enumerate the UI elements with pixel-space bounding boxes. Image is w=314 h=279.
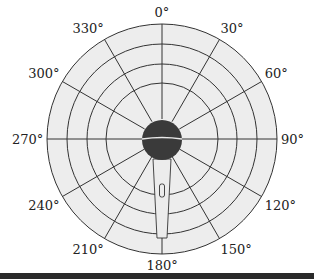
angle-label-270: 270° [12, 133, 43, 146]
angle-label-120: 120° [265, 199, 296, 212]
angle-label-0: 0° [155, 6, 170, 19]
mic-switch [160, 184, 165, 197]
angle-label-330: 330° [73, 22, 104, 35]
angle-label-90: 90° [281, 133, 304, 146]
angle-label-180: 180° [147, 259, 178, 272]
angle-label-210: 210° [73, 243, 104, 256]
angle-label-30: 30° [221, 22, 244, 35]
bottom-bar [0, 273, 314, 279]
polar-diagram: 0°30°60°90°120°150°180°210°240°270°300°3… [0, 0, 314, 279]
angle-label-60: 60° [265, 67, 288, 80]
angle-label-240: 240° [28, 199, 59, 212]
mic-head [142, 120, 182, 160]
angle-label-150: 150° [221, 243, 252, 256]
angle-label-300: 300° [28, 67, 59, 80]
polar-grid [0, 0, 314, 279]
